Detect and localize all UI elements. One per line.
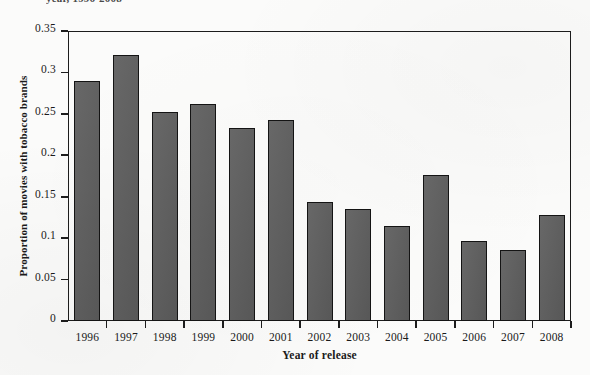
x-tick-mark bbox=[261, 321, 263, 328]
x-tick-mark bbox=[454, 321, 456, 328]
x-tick-mark bbox=[532, 321, 534, 328]
y-tick-mark bbox=[61, 237, 68, 239]
bar-2003 bbox=[345, 209, 371, 321]
bar-1997 bbox=[113, 55, 139, 321]
x-tick-mark bbox=[222, 321, 224, 328]
bar-1996 bbox=[74, 81, 100, 321]
x-tick-mark bbox=[106, 321, 108, 328]
caption-text: year, 1996-2008 bbox=[46, 0, 266, 5]
bar-2006 bbox=[461, 241, 487, 321]
x-tick-mark bbox=[299, 321, 301, 328]
x-tick-mark bbox=[145, 321, 147, 328]
bar-2001 bbox=[268, 120, 294, 321]
y-tick-mark bbox=[61, 320, 68, 322]
y-axis-title: Proportion of movies with tobacco brands bbox=[14, 31, 32, 321]
bar-2005 bbox=[423, 175, 449, 321]
y-tick-mark bbox=[61, 113, 68, 115]
y-tick-mark bbox=[61, 279, 68, 281]
y-tick-mark bbox=[61, 196, 68, 198]
x-tick-mark bbox=[338, 321, 340, 328]
chart-page: year, 1996-2008 Proportion of movies wit… bbox=[0, 0, 590, 375]
x-tick-mark bbox=[183, 321, 185, 328]
y-tick-label: 0.35 bbox=[35, 22, 56, 34]
bar-1999 bbox=[190, 104, 216, 321]
bar-1998 bbox=[152, 112, 178, 321]
x-axis-title: Year of release bbox=[68, 349, 571, 361]
clipped-caption-text: year, 1996-2008 bbox=[46, 0, 266, 5]
y-tick-label: 0.15 bbox=[35, 188, 56, 200]
bar-2004 bbox=[384, 226, 410, 321]
y-tick-label: 0 bbox=[50, 312, 56, 324]
x-tick-mark bbox=[415, 321, 417, 328]
y-tick-mark bbox=[61, 154, 68, 156]
bar-2007 bbox=[500, 250, 526, 321]
y-tick-label: 0.05 bbox=[35, 271, 56, 283]
x-tick-mark bbox=[493, 321, 495, 328]
y-tick-label: 0.3 bbox=[41, 63, 56, 75]
bar-2008 bbox=[539, 215, 565, 321]
x-tick-mark bbox=[377, 321, 379, 328]
bar-2000 bbox=[229, 128, 255, 321]
y-tick-mark bbox=[61, 30, 68, 32]
x-tick-mark bbox=[570, 321, 572, 328]
x-tick-label: 2008 bbox=[526, 331, 578, 343]
y-tick-label: 0.2 bbox=[41, 146, 56, 158]
bar-2002 bbox=[307, 202, 333, 321]
y-tick-label: 0.25 bbox=[35, 105, 56, 117]
y-tick-mark bbox=[61, 72, 68, 74]
y-tick-label: 0.1 bbox=[41, 229, 56, 241]
